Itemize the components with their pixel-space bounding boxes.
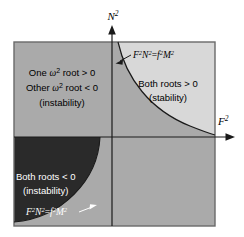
- y-axis-arrowhead: [108, 25, 116, 35]
- x-axis-arrowhead: [226, 133, 236, 141]
- svg-text:One ω2 root > 0: One ω2 root > 0: [29, 67, 95, 79]
- diagram-canvas: N2 F2 One ω2 root > 0 Other ω2 root < 0 …: [0, 0, 244, 237]
- y-axis-label: N2: [106, 9, 118, 22]
- svg-text:Both roots < 0: Both roots < 0: [16, 171, 75, 182]
- svg-text:F2N2=f2M2: F2N2=f2M2: [132, 49, 175, 61]
- svg-text:(stability): (stability): [149, 92, 187, 103]
- svg-text:(instability): (instability): [39, 97, 84, 108]
- stability-regime-diagram: N2 F2 One ω2 root > 0 Other ω2 root < 0 …: [0, 0, 244, 237]
- svg-text:Both roots > 0: Both roots > 0: [138, 78, 197, 89]
- svg-text:Other ω2 root < 0: Other ω2 root < 0: [26, 82, 98, 94]
- svg-text:(instability): (instability): [23, 185, 68, 196]
- x-axis-label: F2: [217, 114, 229, 127]
- svg-text:F2N2=f2M2: F2N2=f2M2: [25, 206, 68, 218]
